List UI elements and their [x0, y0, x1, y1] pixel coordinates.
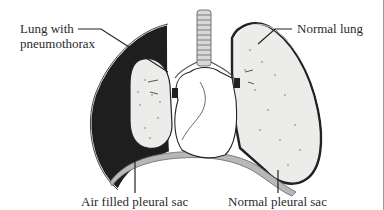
label-lung-with-pneumothorax-line1: Lung with [20, 22, 74, 36]
label-normal-lung: Normal lung [297, 22, 363, 36]
diagram-canvas: Lung with pneumothorax Normal lung Air f… [0, 0, 384, 210]
label-lung-with-pneumothorax-line2: pneumothorax [20, 37, 95, 51]
heart [175, 68, 237, 158]
label-normal-pleural-sac: Normal pleural sac [228, 195, 327, 209]
label-air-filled-pleural-sac: Air filled pleural sac [81, 195, 188, 209]
collapsed-lung [130, 59, 172, 149]
